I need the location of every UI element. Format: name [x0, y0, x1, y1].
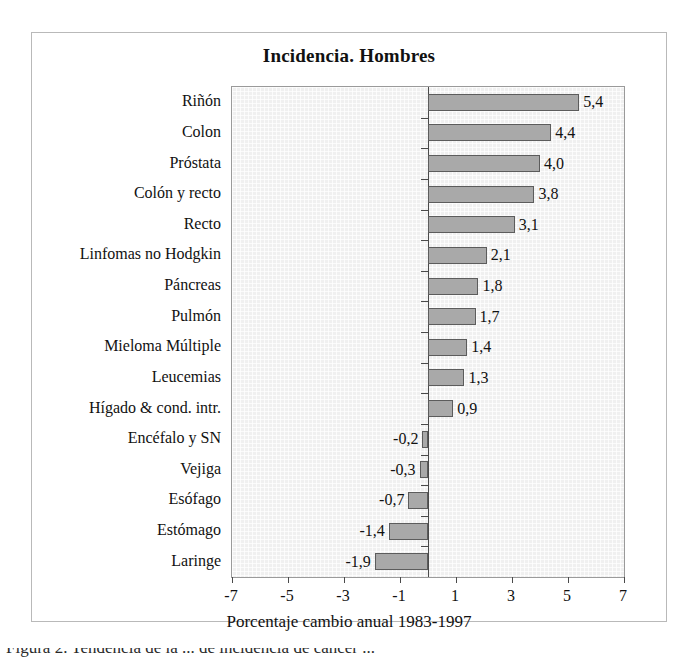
- category-axis-tick: [421, 210, 428, 211]
- bar-value-label: 0,9: [457, 401, 477, 417]
- category-label: Recto: [31, 216, 221, 232]
- bar: [389, 523, 428, 540]
- bar-value-label: 3,1: [519, 217, 539, 233]
- bar: [428, 369, 464, 386]
- category-label: Próstata: [31, 155, 221, 171]
- category-label: Linfomas no Hodgkin: [31, 246, 221, 262]
- bar-value-label: 5,4: [583, 94, 603, 110]
- category-label: Leucemias: [31, 369, 221, 385]
- x-axis-title: Porcentaje cambio anual 1983-1997: [32, 612, 666, 632]
- bar-value-label: 2,1: [491, 247, 511, 263]
- category-axis-tick: [421, 240, 428, 241]
- category-axis-tick: [421, 271, 428, 272]
- x-axis-tick-label: -3: [318, 588, 368, 604]
- category-axis-tick: [421, 301, 428, 302]
- category-label: Pulmón: [31, 308, 221, 324]
- bar: [428, 155, 540, 172]
- x-axis-tick: [400, 577, 401, 583]
- category-label: Encéfalo y SN: [31, 430, 221, 446]
- x-axis-tick: [512, 577, 513, 583]
- category-label: Vejiga: [31, 461, 221, 477]
- category-label: Páncreas: [31, 277, 221, 293]
- category-axis-tick: [421, 424, 428, 425]
- x-axis-tick: [232, 577, 233, 583]
- x-axis-tick-label: -5: [262, 588, 312, 604]
- plot-area: 5,44,44,03,83,12,11,81,71,41,30,9-0,2-0,…: [231, 86, 625, 578]
- category-label: Hígado & cond. intr.: [31, 400, 221, 416]
- category-axis-tick: [421, 516, 428, 517]
- category-label: Colon: [31, 124, 221, 140]
- bar: [408, 492, 428, 509]
- bar-value-label: 3,8: [538, 186, 558, 202]
- x-axis-tick: [456, 577, 457, 583]
- bar: [375, 553, 428, 570]
- bar: [428, 278, 478, 295]
- category-label: Colón y recto: [31, 185, 221, 201]
- bar-value-label: 1,7: [480, 309, 500, 325]
- x-axis-tick: [624, 577, 625, 583]
- bar-value-label: -1,4: [359, 523, 384, 539]
- category-label: Estómago: [31, 522, 221, 538]
- bar: [428, 216, 515, 233]
- x-axis-tick-label: -1: [374, 588, 424, 604]
- bar-value-label: 1,8: [482, 278, 502, 294]
- bar-value-label: -1,9: [345, 554, 370, 570]
- category-axis-tick: [421, 485, 428, 486]
- category-axis-tick: [421, 148, 428, 149]
- category-axis-tick: [421, 179, 428, 180]
- x-axis-tick-label: 5: [542, 588, 592, 604]
- bar-value-label: 1,4: [471, 339, 491, 355]
- bar-value-label: -0,2: [393, 431, 418, 447]
- category-axis-tick: [421, 455, 428, 456]
- bar: [428, 308, 476, 325]
- bar-value-label: 4,4: [555, 125, 575, 141]
- category-axis-tick: [421, 118, 428, 119]
- bar-value-label: -0,3: [390, 462, 415, 478]
- chart-title: Incidencia. Hombres: [32, 45, 666, 67]
- x-axis-tick-label: 1: [430, 588, 480, 604]
- figure-frame: Incidencia. Hombres 5,44,44,03,83,12,11,…: [31, 32, 667, 622]
- category-label: Riñón: [31, 93, 221, 109]
- x-axis-tick-label: -7: [206, 588, 256, 604]
- x-axis-tick: [288, 577, 289, 583]
- bar: [428, 247, 487, 264]
- bar: [428, 186, 534, 203]
- x-axis-tick: [568, 577, 569, 583]
- category-axis-tick: [421, 332, 428, 333]
- x-axis-tick: [344, 577, 345, 583]
- bar: [428, 124, 551, 141]
- category-label: Mieloma Múltiple: [31, 338, 221, 354]
- x-axis-tick-label: 7: [598, 588, 648, 604]
- page-caption-clipped: Figura 2. Tendencia de la ... de inciden…: [0, 648, 700, 659]
- bar-value-label: -0,7: [379, 492, 404, 508]
- bar: [420, 461, 428, 478]
- category-axis-tick: [421, 363, 428, 364]
- x-axis-tick-label: 3: [486, 588, 536, 604]
- category-axis-tick: [421, 546, 428, 547]
- bar: [422, 431, 428, 448]
- bar-value-label: 4,0: [544, 156, 564, 172]
- category-label: Esófago: [31, 491, 221, 507]
- bar: [428, 400, 453, 417]
- caption-text: Figura 2. Tendencia de la ... de inciden…: [6, 648, 375, 658]
- bar: [428, 94, 579, 111]
- category-axis-tick: [421, 393, 428, 394]
- category-label: Laringe: [31, 553, 221, 569]
- bar-value-label: 1,3: [468, 370, 488, 386]
- bar: [428, 339, 467, 356]
